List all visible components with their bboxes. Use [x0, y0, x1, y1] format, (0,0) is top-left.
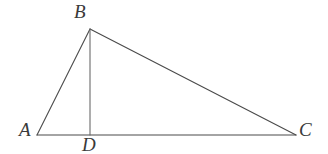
vertex-label-c: C — [299, 120, 312, 139]
segment-BC — [90, 29, 296, 135]
vertex-label-b: B — [74, 2, 86, 21]
geometry-figure: A B C D — [0, 0, 328, 154]
triangle-diagram-canvas — [0, 0, 328, 154]
segment-AB — [37, 29, 90, 135]
vertex-label-a: A — [19, 120, 31, 139]
vertex-label-d: D — [82, 135, 96, 154]
